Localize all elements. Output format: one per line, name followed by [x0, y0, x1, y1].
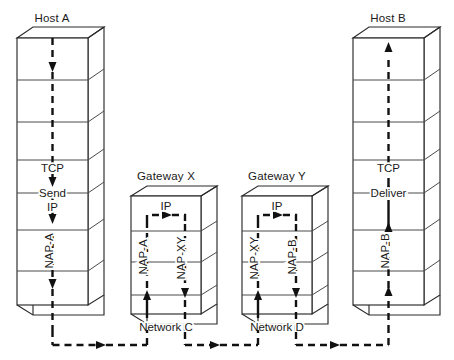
- gateway-y-side-divider-1: [312, 221, 328, 231]
- gateway-y-title: Gateway Y: [248, 170, 306, 182]
- gateway-y-side-divider-2: [312, 252, 328, 262]
- host-b-label-tcp: TCP: [377, 162, 400, 174]
- host-b-side-divider-4: [424, 182, 440, 193]
- gateway-x-label-ip: IP: [161, 200, 172, 212]
- host-a-side-divider-6: [88, 260, 104, 271]
- host-b-side-divider-2: [424, 111, 440, 122]
- host-a-label-send: Send: [39, 187, 66, 199]
- diagram-canvas: Host A: [0, 0, 454, 360]
- host-b-label-deliver: Deliver: [371, 187, 407, 199]
- gateway-x-title: Gateway X: [137, 170, 195, 182]
- link-host-a-to-gateway-x: [53, 330, 148, 349]
- gateway-x-side-divider-3: [201, 285, 217, 295]
- host-b-side-face: [424, 27, 440, 305]
- host-a-side-divider-5: [88, 219, 104, 230]
- gateway-y-label-nap-xy: NAP-XY: [248, 236, 260, 279]
- gateway-x-label-nap-xy: NAP-XY: [175, 236, 187, 279]
- host-a-label-ip: IP: [47, 201, 58, 213]
- gateway-y-label-ip: IP: [272, 200, 283, 212]
- host-a-side-divider-2: [88, 111, 104, 122]
- host-a-label-tcp: TCP: [41, 162, 64, 174]
- gateway-x-label-nap-a: NAP-A: [137, 239, 149, 274]
- host-a-side-divider-1: [88, 69, 104, 80]
- link-gateway-y-to-host-b: [296, 332, 389, 349]
- node-gateway-y[interactable]: Gateway Y IP NAP-XY NAP-B: [242, 170, 328, 332]
- gateway-x-side-divider-2: [201, 252, 217, 262]
- gateway-x-side-divider-1: [201, 221, 217, 231]
- node-gateway-x[interactable]: Gateway X IP: [131, 170, 217, 332]
- gateway-y-label-nap-b: NAP-B: [286, 239, 298, 274]
- host-a-label-nap-a: NAP-A: [43, 233, 55, 268]
- host-b-side-divider-1: [424, 69, 440, 80]
- link-gateway-x-to-gateway-y: [185, 330, 258, 349]
- host-a-side-face: [88, 27, 104, 305]
- host-b-side-divider-5: [424, 219, 440, 230]
- host-b-side-divider-6: [424, 260, 440, 271]
- host-b-side-divider-3: [424, 149, 440, 160]
- host-a-title: Host A: [34, 12, 69, 24]
- node-host-b[interactable]: Host B TCP Deliv: [353, 12, 440, 332]
- host-b-title: Host B: [370, 12, 406, 24]
- protocol-stack-svg: Host A: [0, 0, 454, 360]
- gateway-y-side-face: [312, 186, 328, 314]
- gateway-y-side-divider-3: [312, 285, 328, 295]
- host-a-side-divider-3: [88, 149, 104, 160]
- host-b-label-nap-b: NAP-B: [379, 233, 391, 268]
- host-a-side-divider-4: [88, 182, 104, 193]
- node-host-a[interactable]: Host A: [17, 12, 104, 330]
- gateway-x-side-face: [201, 186, 217, 314]
